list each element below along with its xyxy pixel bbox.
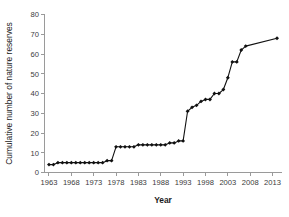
y-tick-label: 0 bbox=[35, 168, 39, 177]
x-axis: 1963196819731978198319881993199820032008… bbox=[41, 173, 282, 188]
data-point-marker bbox=[230, 60, 234, 64]
data-point-marker bbox=[51, 163, 55, 167]
data-point-marker bbox=[168, 141, 172, 145]
y-tick-label: 20 bbox=[31, 129, 39, 138]
y-tick-label: 70 bbox=[31, 30, 39, 39]
x-tick-label: 1993 bbox=[175, 178, 192, 187]
y-tick-label: 50 bbox=[31, 70, 39, 79]
x-tick-label: 2013 bbox=[264, 178, 281, 187]
data-point-marker bbox=[226, 76, 230, 80]
data-point-marker bbox=[145, 143, 149, 147]
y-tick-label: 10 bbox=[31, 149, 39, 158]
data-point-marker bbox=[87, 161, 91, 165]
data-point-marker bbox=[141, 143, 145, 147]
data-point-marker bbox=[123, 145, 127, 149]
y-tick-label: 40 bbox=[31, 89, 39, 98]
x-tick-label: 2003 bbox=[219, 178, 236, 187]
data-point-marker bbox=[78, 161, 82, 165]
data-point-marker bbox=[159, 143, 163, 147]
data-point-marker bbox=[65, 161, 69, 165]
y-axis: 01020304050607080 bbox=[31, 10, 45, 177]
series-polyline bbox=[49, 38, 277, 164]
data-point-marker bbox=[275, 36, 279, 40]
data-point-marker bbox=[69, 161, 73, 165]
data-point-marker bbox=[204, 97, 208, 101]
y-axis-title: Cumulative number of nature reserves bbox=[4, 22, 14, 164]
x-tick-label: 2008 bbox=[242, 178, 259, 187]
data-point-marker bbox=[132, 145, 136, 149]
data-point-marker bbox=[177, 139, 181, 143]
data-point-marker bbox=[136, 143, 140, 147]
data-point-marker bbox=[119, 145, 123, 149]
x-tick-label: 1973 bbox=[85, 178, 102, 187]
data-point-marker bbox=[181, 139, 185, 143]
line-chart: 01020304050607080 1963196819731978198319… bbox=[0, 0, 289, 217]
data-point-marker bbox=[150, 143, 154, 147]
data-point-marker bbox=[128, 145, 132, 149]
data-point-marker bbox=[74, 161, 78, 165]
data-point-marker bbox=[47, 163, 51, 167]
data-point-marker bbox=[163, 143, 167, 147]
y-tick-label: 30 bbox=[31, 109, 39, 118]
chart-container: 01020304050607080 1963196819731978198319… bbox=[0, 0, 289, 217]
x-tick-label: 1963 bbox=[41, 178, 58, 187]
data-point-marker bbox=[154, 143, 158, 147]
data-point-marker bbox=[60, 161, 64, 165]
data-point-marker bbox=[56, 161, 60, 165]
data-point-marker bbox=[235, 60, 239, 64]
data-point-marker bbox=[101, 161, 105, 165]
data-point-marker bbox=[83, 161, 87, 165]
y-tick-label: 80 bbox=[31, 10, 39, 19]
data-point-marker bbox=[105, 159, 109, 163]
x-tick-label: 1998 bbox=[197, 178, 214, 187]
y-tick-label: 60 bbox=[31, 50, 39, 59]
data-point-marker bbox=[172, 141, 176, 145]
x-axis-title: Year bbox=[154, 195, 172, 205]
data-series-cumulative-reserves bbox=[47, 36, 279, 166]
data-point-marker bbox=[92, 161, 96, 165]
data-point-marker bbox=[114, 145, 118, 149]
x-tick-label: 1988 bbox=[152, 178, 169, 187]
x-tick-label: 1978 bbox=[108, 178, 125, 187]
x-tick-label: 1968 bbox=[63, 178, 80, 187]
x-tick-label: 1983 bbox=[130, 178, 147, 187]
data-point-marker bbox=[96, 161, 100, 165]
data-point-marker bbox=[110, 159, 114, 163]
